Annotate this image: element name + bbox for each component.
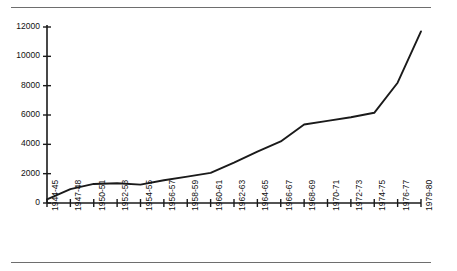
x-axis-tick-label: 1964-65 — [261, 180, 270, 211]
x-axis-tick-label: 1954-55 — [145, 180, 154, 211]
y-axis-tick-label-text: 6000 — [0, 110, 40, 119]
y-axis-tick-label-text: 12000 — [0, 22, 40, 31]
y-axis-tick-label-text: 8000 — [0, 81, 40, 90]
x-axis-tick-label: 1970-71 — [332, 180, 341, 211]
x-axis-tick-label: 1976-77 — [402, 180, 411, 211]
y-axis-tick-label-text: 10000 — [0, 51, 40, 60]
x-axis-tick-label: 1944-45 — [51, 180, 60, 211]
x-axis-tick-label: 1958-59 — [191, 180, 200, 211]
chart-figure: 020004000600080001000012000 1944-451947-… — [0, 0, 457, 271]
x-axis-tick-label: 1950-51 — [98, 180, 107, 211]
x-axis-tick-label: 1962-63 — [238, 180, 247, 211]
x-axis-tick-label: 1966-67 — [285, 180, 294, 211]
x-axis-tick-label: 1947-48 — [74, 180, 83, 211]
y-axis-tick-label-text: 0 — [0, 198, 40, 207]
chart-svg — [0, 0, 457, 271]
data-series-line — [47, 31, 421, 199]
x-axis-tick-label: 1952-53 — [121, 180, 130, 211]
x-axis-tick-label: 1968-69 — [308, 180, 317, 211]
x-axis-tick-label: 1979-80 — [425, 180, 434, 211]
y-axis-tick-label-text: 2000 — [0, 169, 40, 178]
x-axis-tick-label: 1960-61 — [215, 180, 224, 211]
x-axis-tick-label: 1974-75 — [378, 180, 387, 211]
x-axis-tick-label: 1972-73 — [355, 180, 364, 211]
x-axis-tick-label: 1956-57 — [168, 180, 177, 211]
line-chart-plot-area: 020004000600080001000012000 1944-451947-… — [0, 0, 457, 271]
y-axis-tick-label-text: 4000 — [0, 139, 40, 148]
